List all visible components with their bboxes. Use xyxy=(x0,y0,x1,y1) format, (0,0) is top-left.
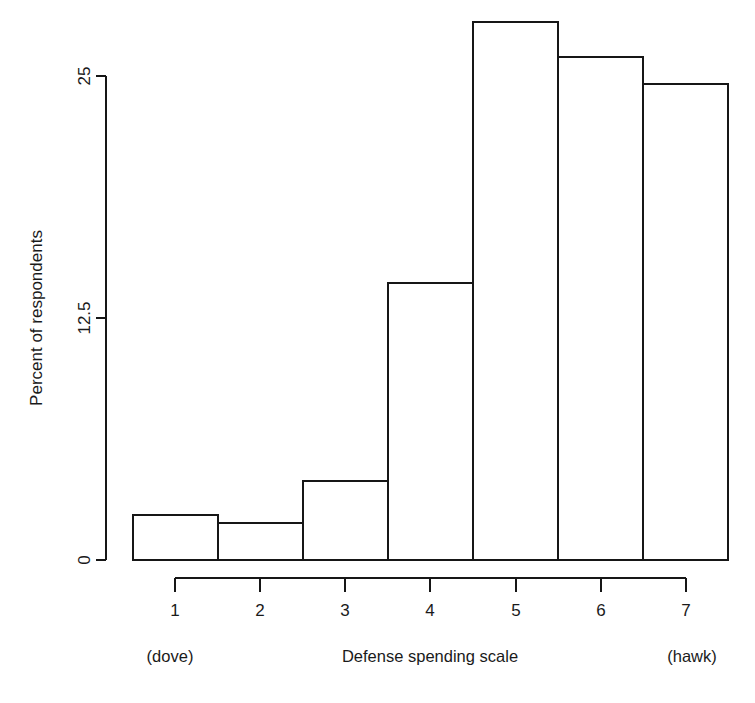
bar-7 xyxy=(643,84,728,560)
x-axis-tick-label-6: 6 xyxy=(596,601,605,620)
bar-6 xyxy=(558,57,643,560)
bar-3 xyxy=(303,481,388,560)
x-axis: 1 2 3 4 5 6 7 xyxy=(170,578,690,620)
histogram-figure: 25 12.5 0 Percent of respondents xyxy=(0,0,755,703)
y-axis-title: Percent of respondents xyxy=(27,230,46,406)
dove-end-label: (dove) xyxy=(147,647,194,665)
bar-series xyxy=(133,22,728,560)
chart-canvas: 25 12.5 0 Percent of respondents xyxy=(0,0,755,703)
bar-2 xyxy=(218,523,303,560)
bar-5 xyxy=(473,22,558,560)
x-axis-tick-label-4: 4 xyxy=(425,601,434,620)
x-axis-tick-label-2: 2 xyxy=(255,601,264,620)
y-axis-tick-label-0: 0 xyxy=(75,555,94,564)
x-axis-tick-label-1: 1 xyxy=(170,601,179,620)
x-axis-tick-label-7: 7 xyxy=(681,601,690,620)
y-axis-tick-label-25: 25 xyxy=(75,67,94,86)
hawk-end-label: (hawk) xyxy=(667,647,717,665)
y-axis: 25 12.5 0 Percent of respondents xyxy=(27,67,106,565)
bar-4 xyxy=(388,283,473,560)
x-axis-tick-label-3: 3 xyxy=(340,601,349,620)
x-axis-tick-label-5: 5 xyxy=(511,601,520,620)
y-axis-tick-label-12-5: 12.5 xyxy=(75,301,94,334)
x-axis-title: Defense spending scale xyxy=(342,647,518,665)
bar-1 xyxy=(133,515,218,560)
x-axis-caption-row: (dove) Defense spending scale (hawk) xyxy=(147,647,717,665)
